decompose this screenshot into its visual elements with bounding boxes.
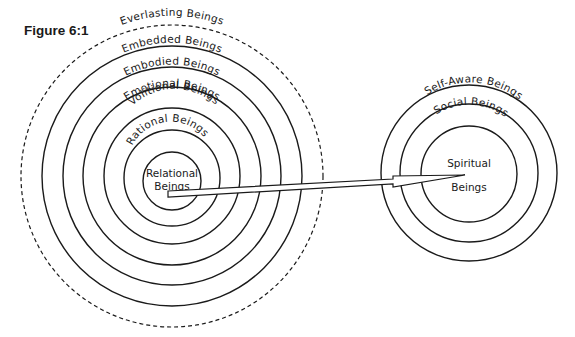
label-social: Social Beings [431,95,511,119]
arrow-relational-to-spiritual [168,175,465,197]
label-embodied: Embodied Beings [121,55,222,78]
right-concentric-diagram: Self-Aware Beings Social Beings Spiritua… [381,72,557,261]
label-rational: Rational Beings [123,112,211,147]
ring-spiritual [421,126,517,222]
left-concentric-diagram: Everlasting Beings Embedded Beings Embod… [21,6,323,327]
concentric-beings-diagram: Everlasting Beings Embedded Beings Embod… [0,0,575,337]
label-everlasting: Everlasting Beings [118,6,226,27]
label-relational-line1: Relational [146,167,198,179]
ring-self-aware [381,85,557,261]
label-spiritual-line2: Beings [451,181,486,193]
label-spiritual-line1: Spiritual [447,157,491,169]
